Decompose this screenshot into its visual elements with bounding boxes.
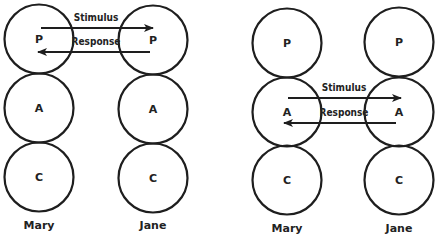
ego-state-letter: P bbox=[35, 33, 43, 46]
ego-state-letter: A bbox=[149, 103, 158, 116]
ego-state-letter: C bbox=[35, 171, 43, 184]
transaction-label-stimulus: Stimulus bbox=[322, 82, 367, 93]
person-mary: PACMary bbox=[253, 9, 322, 236]
ego-state-letter: P bbox=[149, 34, 157, 47]
ego-state-letter: A bbox=[35, 102, 44, 115]
ego-state-letter: C bbox=[149, 172, 157, 185]
ego-state-letter: P bbox=[395, 36, 403, 49]
ego-state-letter: C bbox=[283, 174, 291, 187]
person-label: Jane bbox=[139, 219, 167, 232]
diagram-root: PACMaryPACJaneStimulusResponsePACMaryPAC… bbox=[5, 5, 434, 236]
person-label: Jane bbox=[385, 222, 413, 235]
person-mary: PACMary bbox=[5, 5, 74, 233]
diagram-parent-parent: PACMaryPACJaneStimulusResponse bbox=[5, 5, 188, 233]
transaction-label-response: Response bbox=[72, 36, 121, 47]
person-jane: PACJane bbox=[365, 8, 434, 236]
person-label: Mary bbox=[24, 219, 55, 232]
ego-state-letter: A bbox=[283, 106, 292, 119]
transactional-analysis-diagram: PACMaryPACJaneStimulusResponsePACMaryPAC… bbox=[0, 0, 436, 236]
ego-state-letter: P bbox=[283, 37, 291, 50]
ego-state-letter: C bbox=[395, 174, 403, 187]
person-label: Mary bbox=[272, 222, 303, 235]
transaction-label-stimulus: Stimulus bbox=[74, 12, 119, 23]
person-jane: PACJane bbox=[119, 6, 188, 233]
diagram-adult-adult: PACMaryPACJaneStimulusResponse bbox=[253, 8, 434, 236]
transaction-label-response: Response bbox=[320, 107, 369, 118]
ego-state-letter: A bbox=[395, 106, 404, 119]
